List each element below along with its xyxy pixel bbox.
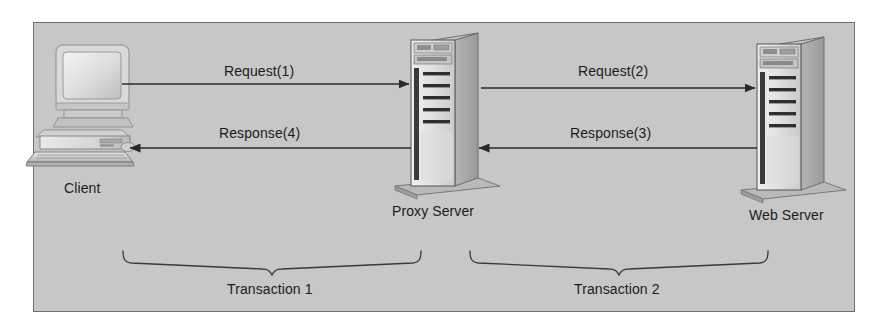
server-tower-icon-proxy <box>395 33 500 199</box>
server-tower-icon-web <box>741 37 846 203</box>
brace-transaction-2 <box>470 251 768 275</box>
network-diagram: Client Proxy Server Web Server Request(1… <box>0 0 881 326</box>
arrow-label-request-2: Request(2) <box>578 63 648 79</box>
node-label-proxy-server: Proxy Server <box>392 203 474 219</box>
brace-transaction-1 <box>123 251 421 275</box>
arrow-label-response-4: Response(4) <box>219 125 300 141</box>
bracket-label-transaction-2: Transaction 2 <box>574 281 660 297</box>
bracket-label-transaction-1: Transaction 1 <box>227 281 313 297</box>
diagram-vector-layer <box>0 0 881 326</box>
node-label-client: Client <box>64 180 100 196</box>
arrow-label-request-1: Request(1) <box>224 63 294 79</box>
arrow-label-response-3: Response(3) <box>570 125 651 141</box>
desktop-computer-icon <box>26 45 135 166</box>
node-label-web-server: Web Server <box>749 207 824 223</box>
